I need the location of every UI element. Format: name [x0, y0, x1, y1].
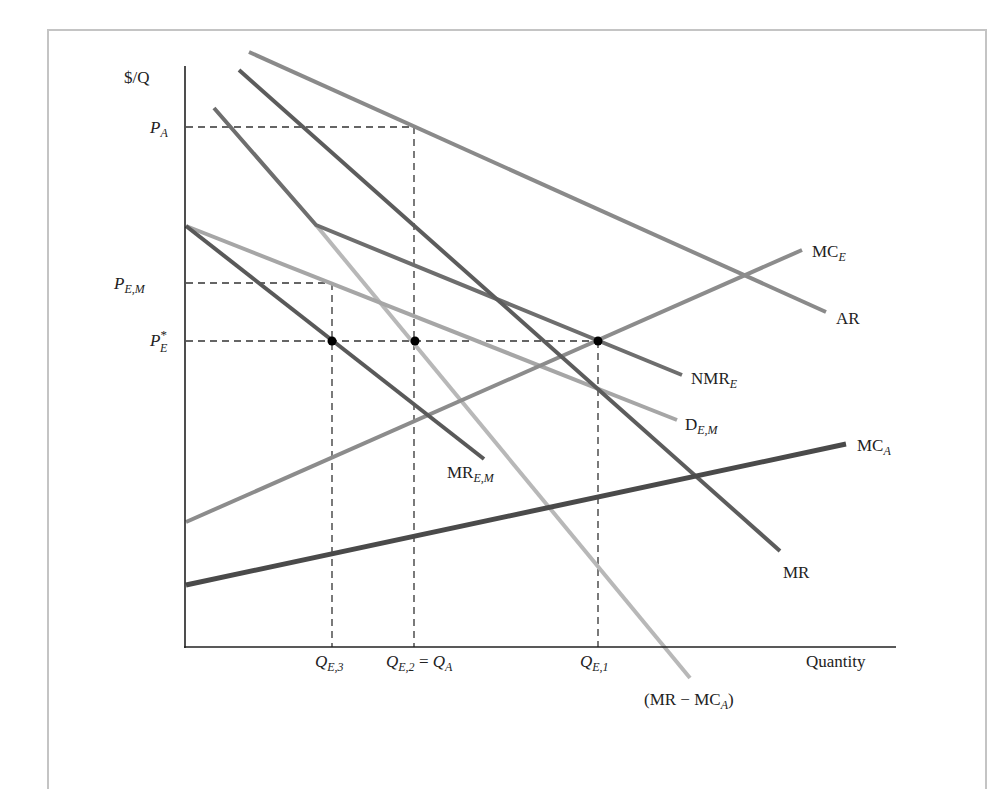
curve-mr-minus-mca: [316, 225, 690, 678]
tick-qe2-qa: QE,2 = QA: [386, 652, 453, 674]
label-mca: MCA: [857, 436, 891, 458]
label-mr: MR: [783, 563, 810, 582]
label-nmre: NMRE: [691, 369, 738, 391]
tick-pem: PE,M: [113, 274, 146, 296]
tick-qe1: QE,1: [580, 652, 609, 674]
tick-qe3: QE,3: [315, 652, 344, 674]
tick-pe-star: P*E: [149, 327, 168, 355]
label-mr-minus-mca: (MR − MCA): [644, 690, 734, 712]
curve-mr: [239, 70, 780, 551]
label-mrem: MRE,M: [447, 463, 495, 485]
curves: [186, 52, 846, 678]
label-mce: MCE: [812, 242, 846, 264]
label-ar: AR: [836, 309, 860, 328]
curve-dem: [186, 226, 677, 420]
x-axis-label: Quantity: [806, 652, 866, 671]
point-qe1: [594, 337, 603, 346]
point-qe2: [411, 337, 420, 346]
y-axis-label: $/Q: [124, 68, 150, 87]
point-qe3: [328, 337, 337, 346]
tick-pa: PA: [149, 118, 168, 140]
curve-ar: [249, 52, 826, 312]
label-dem: DE,M: [685, 415, 719, 437]
